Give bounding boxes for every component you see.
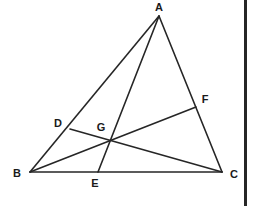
point-label-b: B <box>13 168 21 179</box>
segment-dc <box>70 129 222 172</box>
geometry-figure <box>0 0 254 206</box>
point-label-a: A <box>155 2 163 13</box>
point-label-g: G <box>97 122 106 133</box>
segment-ae <box>98 16 159 172</box>
segments-group <box>30 16 222 172</box>
segment-ca <box>159 16 222 172</box>
figure-canvas: ABCDEFG <box>0 0 254 206</box>
point-label-f: F <box>202 94 209 105</box>
right-edge-border <box>244 0 247 206</box>
point-label-e: E <box>91 178 98 189</box>
point-label-d: D <box>54 118 62 129</box>
point-label-c: C <box>230 169 238 180</box>
